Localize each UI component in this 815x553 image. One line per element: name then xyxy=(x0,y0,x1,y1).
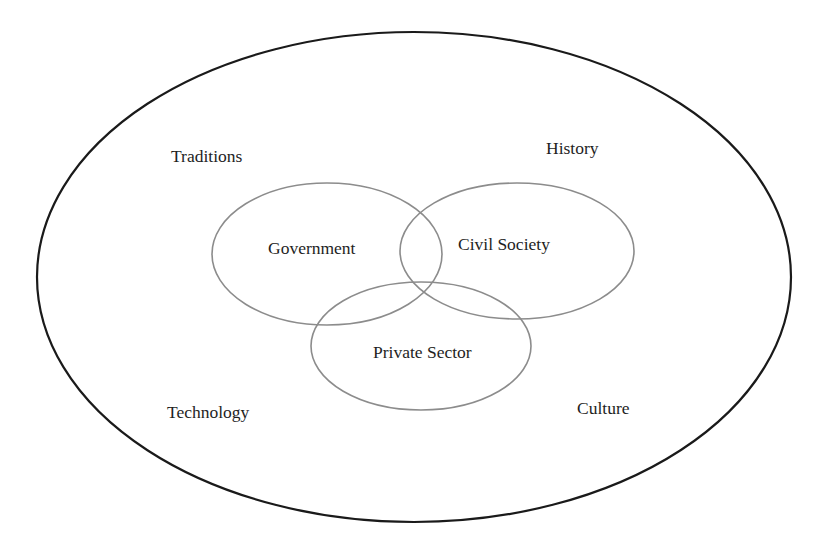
label-private-sector: Private Sector xyxy=(373,342,472,362)
label-history: History xyxy=(546,138,599,158)
venn-diagram: Traditions History Technology Culture Go… xyxy=(0,0,815,553)
label-culture: Culture xyxy=(577,398,630,418)
context-ellipse xyxy=(37,32,791,522)
label-traditions: Traditions xyxy=(171,146,243,166)
label-government: Government xyxy=(268,238,356,258)
label-technology: Technology xyxy=(167,402,250,422)
label-civil-society: Civil Society xyxy=(458,234,550,254)
